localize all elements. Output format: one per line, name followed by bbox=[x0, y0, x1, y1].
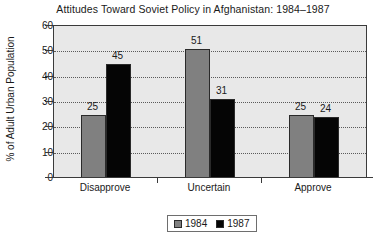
bar-value-label: 45 bbox=[112, 50, 123, 61]
gridline bbox=[54, 51, 366, 52]
legend-swatch-icon bbox=[174, 220, 182, 228]
bar-approve-1987 bbox=[314, 117, 339, 178]
bar-disapprove-1984 bbox=[81, 115, 106, 178]
legend-swatch-icon bbox=[216, 220, 224, 228]
x-tick-mark bbox=[157, 177, 158, 183]
x-tick-mark bbox=[261, 177, 262, 183]
legend-label: 1984 bbox=[185, 218, 207, 229]
bar-approve-1984 bbox=[289, 115, 314, 178]
x-category-label-approve: Approve bbox=[294, 182, 331, 193]
y-tick-mark bbox=[45, 101, 53, 102]
y-tick-mark bbox=[45, 126, 53, 127]
legend-entry-1984: 1984 bbox=[174, 218, 207, 229]
legend-entry-1987: 1987 bbox=[216, 218, 249, 229]
x-axis-line bbox=[45, 177, 373, 178]
plot-area bbox=[53, 25, 367, 178]
bar-value-label: 25 bbox=[87, 101, 98, 112]
y-tick-mark bbox=[45, 76, 53, 77]
chart-title: Attitudes Toward Soviet Policy in Afghan… bbox=[0, 3, 386, 15]
x-category-label-uncertain: Uncertain bbox=[188, 182, 231, 193]
y-tick-mark bbox=[45, 25, 53, 26]
bar-disapprove-1987 bbox=[106, 64, 131, 178]
gridline bbox=[54, 77, 366, 78]
bar-value-label: 25 bbox=[295, 101, 306, 112]
bar-value-label: 31 bbox=[216, 85, 227, 96]
bar-value-label: 51 bbox=[191, 35, 202, 46]
bar-uncertain-1984 bbox=[185, 49, 210, 178]
bar-value-label: 24 bbox=[320, 103, 331, 114]
bar-uncertain-1987 bbox=[210, 99, 235, 178]
y-axis-ticks: 0102030405060 bbox=[0, 0, 53, 244]
y-tick-mark bbox=[45, 152, 53, 153]
y-tick-mark bbox=[45, 50, 53, 51]
x-category-label-disapprove: Disapprove bbox=[80, 182, 131, 193]
bar-chart-figure: Attitudes Toward Soviet Policy in Afghan… bbox=[0, 0, 386, 244]
legend-label: 1987 bbox=[227, 218, 249, 229]
chart-legend: 19841987 bbox=[167, 215, 257, 232]
